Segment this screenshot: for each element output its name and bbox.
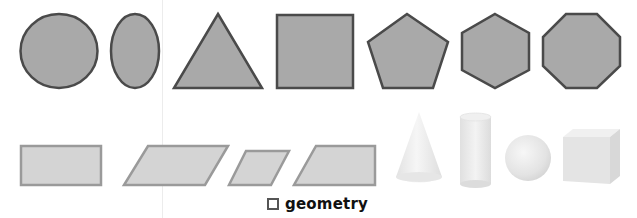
caption-label: geometry xyxy=(285,195,368,213)
sphere-solid xyxy=(505,135,551,181)
parallelogram-shape xyxy=(124,146,228,185)
rectangle-shape xyxy=(21,146,101,185)
circle-shape xyxy=(21,14,98,88)
geometry-illustration xyxy=(0,0,637,218)
cone-solid xyxy=(396,112,442,183)
trapezoid-shape xyxy=(294,146,375,185)
hexagon-shape xyxy=(462,14,529,88)
cylinder-solid xyxy=(460,113,491,188)
octagon-shape xyxy=(543,14,620,88)
rhombus-shape xyxy=(229,151,289,185)
square-outline-icon xyxy=(267,198,279,210)
ellipse-shape xyxy=(111,14,159,88)
caption: geometry xyxy=(267,193,368,215)
cube-solid xyxy=(563,129,620,184)
triangle-shape xyxy=(174,14,262,88)
square-shape xyxy=(277,15,353,88)
pentagon-shape xyxy=(368,14,448,88)
